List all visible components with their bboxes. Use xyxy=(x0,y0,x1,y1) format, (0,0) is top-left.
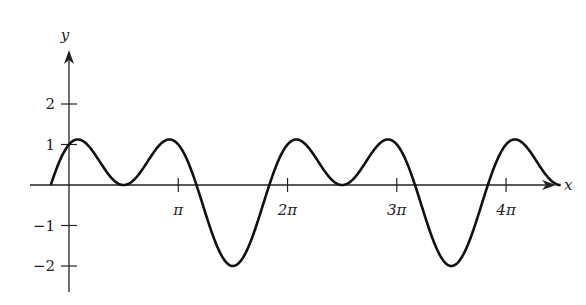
x-tick-label: 2π xyxy=(277,201,299,219)
x-tick-label: 4π xyxy=(495,201,517,219)
axes xyxy=(30,50,556,292)
x-tick-label: 3π xyxy=(387,201,408,219)
y-tick-label: −1 xyxy=(33,217,55,235)
function-plot: π2π3π4π21−1−2 x y xyxy=(0,0,586,305)
y-tick-label: 2 xyxy=(45,95,55,113)
y-tick-label: 1 xyxy=(45,136,55,154)
x-axis-label: x xyxy=(564,176,573,194)
y-axis-label: y xyxy=(60,26,70,44)
x-tick-label: π xyxy=(172,201,184,219)
function-curve xyxy=(51,139,561,266)
y-tick-label: −2 xyxy=(33,257,55,275)
